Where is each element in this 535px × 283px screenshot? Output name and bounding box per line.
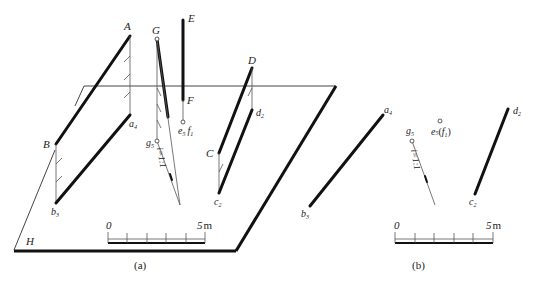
point-label-F: F: [186, 94, 194, 106]
caption-b: (b): [412, 259, 425, 272]
point-label-a4: a4: [129, 118, 137, 130]
projection-diagram: H A B a4 b3: [0, 0, 535, 283]
point-label-C: C: [206, 147, 214, 159]
figure-a: H A B a4 b3: [14, 12, 336, 272]
point-e5f1: [438, 119, 442, 123]
figure-b: a4 b3 g5 i=1:1 e5(f1) d2 c2 0 5m: [301, 104, 521, 272]
plane-label-h: H: [25, 235, 35, 247]
point-label-B: B: [43, 138, 50, 150]
caption-a: (a): [134, 259, 147, 272]
point-label-e5f1: e5f1: [178, 125, 193, 137]
scale-bar-a: [108, 232, 205, 243]
scale-bar-b: [395, 232, 493, 243]
scale-start-b: 0: [394, 219, 400, 231]
point-label-c2-b: c2: [469, 196, 476, 208]
line-ab: [56, 36, 130, 203]
scale-end-b: 5m: [486, 219, 502, 231]
slope-label-a: i=1:1: [155, 147, 168, 169]
point-label-b3-b: b3: [301, 208, 309, 220]
projection-c2d2: [475, 109, 508, 194]
point-label-g5: g5: [146, 137, 154, 149]
slope-label-b: i=1:1: [409, 149, 422, 171]
point-label-g5-b: g5: [406, 125, 414, 137]
point-label-A: A: [123, 20, 131, 32]
point-label-c2: c2: [214, 196, 221, 208]
line-g: [155, 37, 180, 205]
point-label-a4-b: a4: [384, 104, 392, 116]
point-label-G: G: [152, 24, 160, 36]
point-label-d2-b: d2: [513, 105, 521, 117]
scale-start-a: 0: [106, 219, 112, 231]
point-label-d2: d2: [256, 107, 264, 119]
scale-end-a: 5m: [197, 219, 213, 231]
point-label-e5f1-b: e5(f1): [431, 126, 451, 138]
line-ef: [181, 20, 185, 124]
point-label-E: E: [187, 12, 195, 24]
point-label-b3: b3: [51, 206, 59, 218]
line-cd: [219, 68, 252, 193]
point-label-D: D: [247, 54, 256, 66]
projection-a4b3: [310, 115, 383, 206]
